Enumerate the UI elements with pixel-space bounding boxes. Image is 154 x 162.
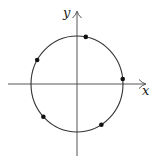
point-1: [83, 35, 88, 40]
unit-circle-diagram: x y: [0, 0, 154, 162]
x-axis-label: x: [142, 83, 150, 98]
y-axis-label: y: [62, 5, 71, 20]
point-4: [41, 114, 46, 119]
point-5: [99, 122, 104, 127]
point-2: [120, 77, 125, 82]
diagram-canvas: x y: [0, 0, 154, 162]
points-group: [35, 35, 125, 127]
point-3: [35, 58, 40, 63]
